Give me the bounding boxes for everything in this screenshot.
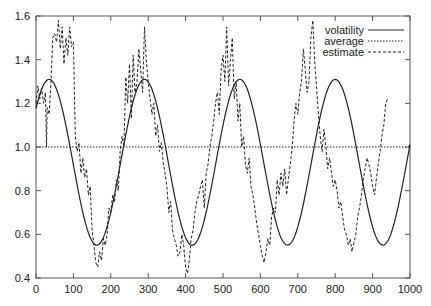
y-tick-label: 1.6: [15, 10, 30, 22]
x-tick-label: 1000: [398, 283, 422, 295]
y-tick-label: 1.4: [15, 54, 30, 66]
x-tick-label: 500: [214, 283, 232, 295]
x-tick-label: 700: [289, 283, 307, 295]
y-tick-label: 1.0: [15, 141, 30, 153]
x-tick-label: 800: [326, 283, 344, 295]
x-tick-label: 0: [33, 283, 39, 295]
line-chart: 0.40.60.81.01.21.41.6 010020030040050060…: [0, 0, 431, 306]
y-tick-label: 0.8: [15, 185, 30, 197]
y-tick-label: 0.6: [15, 228, 30, 240]
y-tick-label: 1.2: [15, 97, 30, 109]
x-tick-label: 300: [139, 283, 157, 295]
y-tick-label: 0.4: [15, 272, 30, 284]
x-tick-label: 100: [64, 283, 82, 295]
x-tick-label: 200: [102, 283, 120, 295]
x-tick-label: 600: [251, 283, 269, 295]
x-tick-label: 900: [363, 283, 381, 295]
legend-label-estimate: estimate: [322, 46, 364, 58]
x-tick-label: 400: [176, 283, 194, 295]
